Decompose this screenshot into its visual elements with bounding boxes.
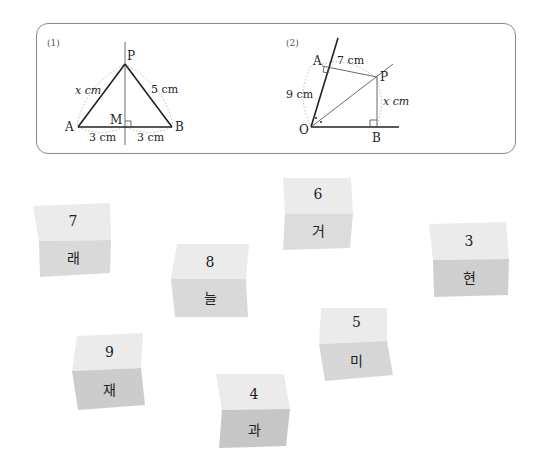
card-number: 6 <box>283 186 353 202</box>
card-number: 4 <box>216 386 292 402</box>
length-OA: 9 cm <box>286 88 314 101</box>
card-3[interactable]: 3 현 <box>429 222 509 297</box>
card-9[interactable]: 9 재 <box>72 333 147 410</box>
card-7[interactable]: 7 래 <box>33 203 113 277</box>
length-AP: 7 cm <box>337 54 365 67</box>
card-word: 과 <box>216 419 292 439</box>
card-number: 9 <box>72 344 147 360</box>
card-word: 래 <box>33 247 113 267</box>
card-4[interactable]: 4 과 <box>216 374 292 448</box>
card-word: 거 <box>283 220 353 240</box>
card-word: 현 <box>429 267 509 287</box>
card-8[interactable]: 8 늘 <box>171 244 249 317</box>
length-PB: x cm <box>383 95 409 108</box>
card-number: 5 <box>319 314 394 330</box>
card-6[interactable]: 6 거 <box>283 178 353 250</box>
figure-2: (2) A P O B 7 cm 9 cm x cm <box>37 24 517 159</box>
card-number: 7 <box>33 213 113 229</box>
point-O-label: O <box>299 123 309 137</box>
problem-box: (1) P A B M x cm 5 cm 3 cm 3 cm (2) <box>36 23 516 154</box>
card-number: 3 <box>429 233 509 249</box>
point-A-label: A <box>312 54 322 68</box>
card-word: 늘 <box>171 287 249 307</box>
card-word: 재 <box>72 379 147 399</box>
card-word: 미 <box>319 350 394 370</box>
card-number: 8 <box>171 254 249 270</box>
point-B-label: B <box>372 131 381 145</box>
card-5[interactable]: 5 미 <box>319 308 394 383</box>
figure-2-diagram: (2) A P O B 7 cm 9 cm x cm <box>37 24 517 155</box>
figure-2-label: (2) <box>286 38 299 48</box>
point-P-label: P <box>380 70 388 84</box>
